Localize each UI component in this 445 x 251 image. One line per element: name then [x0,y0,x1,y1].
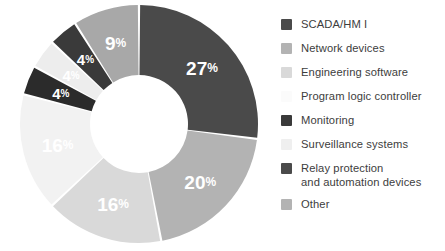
legend-color-swatch [281,163,292,174]
legend-item-label: Other [301,198,329,212]
legend-color-swatch [281,67,292,78]
legend-color-swatch [281,91,292,102]
legend-item-label: Relay protection and automation devices [301,162,421,189]
legend-item-label: Engineering software [301,66,408,80]
legend-color-swatch [281,115,292,126]
legend-color-swatch [281,43,292,54]
legend-item[interactable]: Network devices [281,42,445,56]
donut-chart-figure: 27%20%16%16%4%4%4%9% SCADA/HM INetwork d… [0,0,445,251]
legend-color-swatch [281,139,292,150]
donut-chart-svg: 27%20%16%16%4%4%4%9% [0,0,268,251]
legend-item[interactable]: Relay protection and automation devices [281,162,445,189]
legend-item[interactable]: Monitoring [281,114,445,128]
legend-item-label: Network devices [301,42,385,56]
legend-item-label: Program logic controller [301,90,422,104]
donut-chart-plot-area: 27%20%16%16%4%4%4%9% [0,0,268,251]
legend-color-swatch [281,19,292,30]
legend-item[interactable]: Program logic controller [281,90,445,104]
legend-item[interactable]: Surveillance systems [281,138,445,152]
legend-item-label: SCADA/HM I [301,18,367,32]
legend-item[interactable]: Engineering software [281,66,445,80]
legend-color-swatch [281,199,292,210]
legend-item-label: Monitoring [301,114,354,128]
legend-item[interactable]: Other [281,198,445,212]
chart-legend: SCADA/HM INetwork devicesEngineering sof… [268,0,445,222]
legend-item[interactable]: SCADA/HM I [281,18,445,32]
legend-item-label: Surveillance systems [301,138,408,152]
